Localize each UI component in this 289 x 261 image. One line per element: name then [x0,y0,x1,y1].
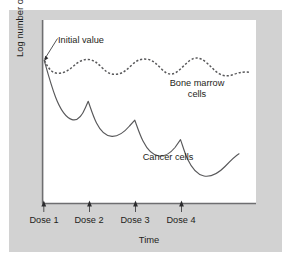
x-tick-label-dose-2: Dose 2 [66,215,112,225]
bone-marrow-annotation: Bone marrow cells [168,78,226,99]
cancer-cells-annotation: Cancer cells [142,152,194,163]
x-tick-label-dose-3: Dose 3 [112,215,158,225]
x-tick-label-dose-1: Dose 1 [21,215,67,225]
y-axis-title: Log number of cells [14,0,25,57]
x-axis-title: Time [42,234,256,245]
x-tick-label-dose-4: Dose 4 [158,215,204,225]
figure-container: Initial value Bone marrow cells Cancer c… [0,0,289,261]
initial-value-pointer [45,39,58,59]
bone-marrow-curve [45,58,250,76]
initial-value-annotation: Initial value [58,35,104,46]
dose-tick-arrows [41,201,184,213]
